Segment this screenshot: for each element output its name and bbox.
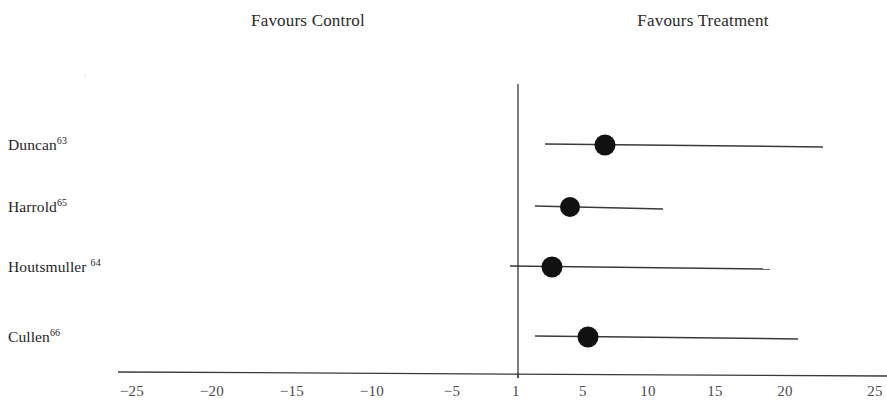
x-axis xyxy=(118,372,887,378)
x-tick-label-25: 25 xyxy=(867,383,883,400)
confidence-interval-line-duncan xyxy=(545,144,823,147)
forest-row-duncan xyxy=(545,135,823,156)
x-tick-label-neg5: −5 xyxy=(444,383,461,400)
study-series xyxy=(510,135,823,348)
x-tick-label-5: 5 xyxy=(579,383,587,400)
forest-plot: Favours Control Favours Treatment Duncan… xyxy=(0,0,887,403)
x-tick-label-10: 10 xyxy=(640,383,656,400)
forest-row-cullen xyxy=(535,327,798,348)
x-axis-line xyxy=(118,372,887,376)
x-tick-label-neg15: −15 xyxy=(280,383,304,400)
forest-row-harrold xyxy=(535,197,663,217)
effect-estimate-marker-cullen xyxy=(578,327,599,348)
confidence-interval-line-harrold xyxy=(535,206,663,209)
x-tick-label-20: 20 xyxy=(777,383,793,400)
x-tick-label-15: 15 xyxy=(707,383,723,400)
x-tick-label-neg25: −25 xyxy=(120,383,144,400)
x-tick-label-neg20: −20 xyxy=(200,383,224,400)
effect-estimate-marker-duncan xyxy=(595,135,616,156)
effect-estimate-marker-harrold xyxy=(560,197,580,217)
x-tick-label-neg10: −10 xyxy=(360,383,384,400)
forest-row-houtsmuller xyxy=(510,257,770,278)
confidence-interval-line-cullen xyxy=(535,336,798,339)
plot-canvas xyxy=(0,0,887,403)
x-tick-label-1: 1 xyxy=(512,383,520,400)
effect-estimate-marker-houtsmuller xyxy=(542,257,563,278)
